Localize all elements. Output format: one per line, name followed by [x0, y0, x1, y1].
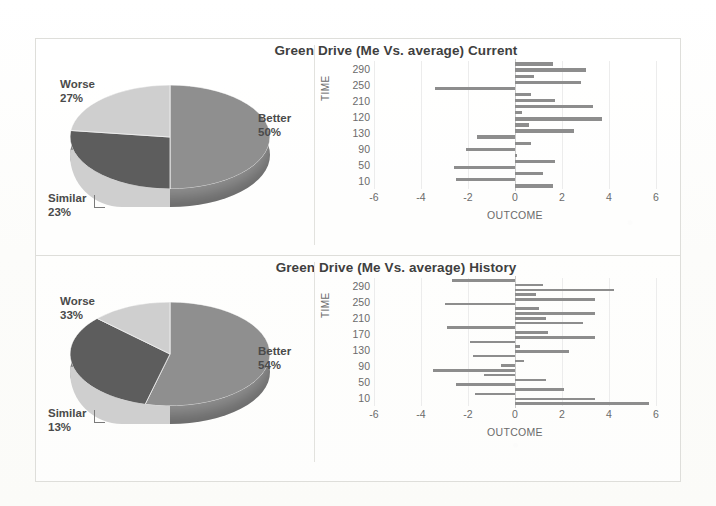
pie-label-worse: Worse 33% [60, 294, 95, 323]
bar-y-tick-label: 10 [340, 392, 370, 404]
bar [515, 99, 555, 102]
bar-y-tick-label: 210 [340, 312, 370, 324]
bar-x-tick-label: 6 [653, 408, 659, 420]
bar [515, 312, 595, 315]
bar [515, 129, 574, 132]
bar [515, 360, 524, 363]
bar [515, 111, 522, 114]
bar-x-tick-label: -2 [463, 191, 472, 203]
bar-gridline [374, 61, 375, 189]
bar-y-axis-title-history: TIME [320, 293, 331, 319]
bar [515, 172, 543, 175]
bar [515, 388, 564, 391]
bar-x-tick-label: -6 [369, 191, 378, 203]
bar-y-tick-label: 130 [340, 344, 370, 356]
pie-chart-current: Worse 27% Better 50% Similar 23% [36, 39, 314, 256]
bar-x-tick-label: -4 [416, 408, 425, 420]
bar-x-tick-label: 0 [512, 408, 518, 420]
bar [470, 341, 515, 344]
bar-y-tick-label: 250 [340, 79, 370, 91]
pie-label-worse-text: Worse [60, 295, 95, 307]
pie-label-better-value: 50% [258, 126, 281, 138]
pie-label-similar: Similar 23% [48, 191, 86, 220]
bar [515, 284, 543, 287]
pie-label-similar-text: Similar [48, 192, 86, 204]
bar [515, 322, 583, 325]
bar-chart-history: TIME -6-4-20246 OUTCOME 2902502101701309… [314, 256, 680, 473]
bar-x-tick-label: 4 [606, 408, 612, 420]
bar-y-tick-label: 290 [340, 280, 370, 292]
pie-label-better-value: 54% [258, 359, 281, 371]
panel-history: Green Drive (Me Vs. average) History Wor… [36, 256, 680, 473]
bar [484, 374, 515, 377]
bar [515, 62, 553, 65]
bar [445, 303, 516, 306]
bar-gridline [421, 278, 422, 406]
bar-y-tick-label: 290 [340, 63, 370, 75]
pie-label-similar-value: 23% [48, 206, 71, 218]
bar-gridline [656, 61, 657, 189]
bar [515, 345, 520, 348]
pie-leader-line [94, 195, 105, 208]
bar [447, 326, 515, 329]
bar [433, 369, 515, 372]
bar [515, 289, 614, 292]
pie-label-worse-value: 27% [60, 92, 83, 104]
bar-x-tick-label: -6 [369, 408, 378, 420]
pie-label-similar-text: Similar [48, 407, 86, 419]
bar [515, 307, 539, 310]
bar-x-tick-label: 4 [606, 191, 612, 203]
pie-label-worse-text: Worse [60, 78, 95, 90]
pie-label-worse-value: 33% [60, 309, 83, 321]
bar [477, 135, 515, 138]
bar [515, 298, 595, 301]
bar [515, 142, 531, 145]
figure-frame: Green Drive (Me Vs. average) Current Wor… [35, 38, 681, 482]
bar-gridline [609, 61, 610, 189]
bar [452, 279, 515, 282]
bar-y-tick-label: 210 [340, 95, 370, 107]
bar-gridline [468, 278, 469, 406]
bar [515, 350, 569, 353]
bar [515, 317, 546, 320]
bar [515, 123, 529, 126]
bar-x-tick-label: -4 [416, 191, 425, 203]
bar [515, 331, 548, 334]
bar-y-tick-label: 250 [340, 296, 370, 308]
bar-gridline [609, 278, 610, 406]
pie-label-better-text: Better [258, 112, 291, 124]
panel-current: Green Drive (Me Vs. average) Current Wor… [36, 39, 680, 256]
bar-gridline [421, 61, 422, 189]
pie-label-better: Better 50% [258, 111, 291, 140]
bar-gridline [468, 61, 469, 189]
bar [515, 379, 546, 382]
bar-x-tick-label: -2 [463, 408, 472, 420]
bar [435, 87, 515, 90]
bar [515, 398, 595, 401]
bar [515, 68, 586, 71]
bar-chart-current: TIME -6-4-20246 OUTCOME 2902502101201309… [314, 39, 680, 256]
pie-label-similar-value: 13% [48, 421, 71, 433]
bar-gridline [656, 278, 657, 406]
pie-top-face [70, 302, 270, 406]
bar [475, 393, 515, 396]
bar-plot-area-history [374, 278, 656, 406]
bar-y-tick-label: 50 [340, 376, 370, 388]
bar [515, 402, 649, 405]
bar-y-tick-label: 90 [340, 143, 370, 155]
bar [515, 105, 593, 108]
pie-chart-history: Worse 33% Better 54% Similar 13% [36, 256, 314, 473]
bar-y-tick-label: 50 [340, 159, 370, 171]
bar [515, 336, 595, 339]
bar [515, 293, 536, 296]
bar-y-tick-label: 10 [340, 175, 370, 187]
pie-label-better-text: Better [258, 345, 291, 357]
bar-x-tick-label: 2 [559, 408, 565, 420]
bar-gridline [374, 278, 375, 406]
bar-y-tick-label: 130 [340, 127, 370, 139]
bar-x-axis-title-current: OUTCOME [374, 209, 656, 221]
bar [473, 355, 515, 358]
bar [456, 383, 515, 386]
bar-x-axis-title-history: OUTCOME [374, 426, 656, 438]
bar [466, 148, 515, 151]
